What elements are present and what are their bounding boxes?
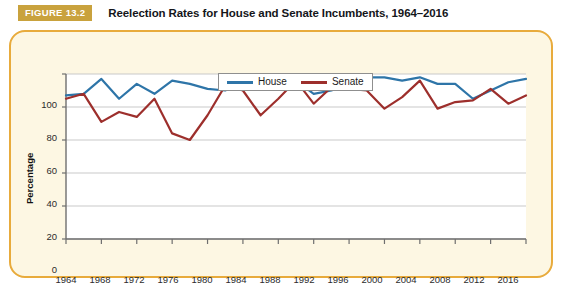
x-tick-label: 1996 bbox=[321, 275, 355, 285]
x-tick-label: 1964 bbox=[49, 275, 83, 285]
x-tick-label: 1992 bbox=[287, 275, 321, 285]
legend-item-senate[interactable]: Senate bbox=[301, 77, 364, 87]
y-tick-label: 100 bbox=[31, 100, 57, 110]
chart-plot-area: 100 80 60 40 20 0 Percentage 1964 1968 1… bbox=[11, 32, 555, 280]
legend-swatch-house-icon bbox=[227, 81, 253, 84]
x-tick-label: 2008 bbox=[423, 275, 457, 285]
chart-legend: House Senate bbox=[218, 73, 373, 91]
x-tick-label: 1980 bbox=[185, 275, 219, 285]
x-tick-label: 1968 bbox=[83, 275, 117, 285]
x-tick-label: 2012 bbox=[457, 275, 491, 285]
y-tick-label: 80 bbox=[31, 133, 57, 143]
x-tick-label: 1988 bbox=[253, 275, 287, 285]
x-tick-label: 2000 bbox=[355, 275, 389, 285]
line-chart-canvas bbox=[11, 32, 555, 280]
y-tick-label: 0 bbox=[31, 265, 57, 275]
x-tick-label: 2016 bbox=[491, 275, 525, 285]
legend-swatch-senate-icon bbox=[301, 81, 327, 84]
figure-frame: 100 80 60 40 20 0 Percentage 1964 1968 1… bbox=[9, 30, 553, 278]
x-tick-label: 1984 bbox=[219, 275, 253, 285]
y-axis-title: Percentage bbox=[25, 153, 35, 204]
x-tick-label: 1976 bbox=[151, 275, 185, 285]
legend-label-house: House bbox=[258, 77, 287, 87]
legend-label-senate: Senate bbox=[332, 77, 364, 87]
figure-number-badge: FIGURE 13.2 bbox=[18, 5, 92, 21]
x-tick-label: 2004 bbox=[389, 275, 423, 285]
figure-header: FIGURE 13.2 Reelection Rates for House a… bbox=[0, 0, 562, 26]
legend-item-house[interactable]: House bbox=[227, 77, 287, 87]
page-title: Reelection Rates for House and Senate In… bbox=[108, 7, 448, 19]
y-tick-label: 20 bbox=[31, 232, 57, 242]
x-tick-label: 1972 bbox=[117, 275, 151, 285]
